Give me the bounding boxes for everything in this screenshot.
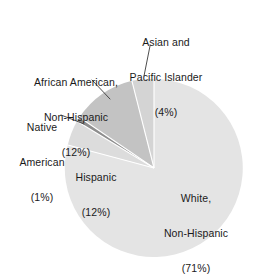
slice-label-white-line1: White, bbox=[152, 193, 240, 205]
slice-label-asian-value: (4%) bbox=[118, 107, 214, 119]
slice-label-hispanic-line1: Hispanic bbox=[58, 172, 134, 184]
slice-label-native-line1: Native bbox=[2, 122, 82, 134]
slice-label-white-line2: Non-Hispanic bbox=[152, 228, 240, 240]
slice-label-white-non-hispanic: White, Non-Hispanic (71%) bbox=[152, 170, 240, 278]
slice-label-hispanic: Hispanic (12%) bbox=[58, 149, 134, 242]
slice-label-asian-line1: Asian and bbox=[118, 37, 214, 49]
slice-label-white-value: (71%) bbox=[152, 263, 240, 275]
slice-label-african-line1: African American, bbox=[22, 77, 130, 89]
slice-label-hispanic-value: (12%) bbox=[58, 207, 134, 219]
slice-label-asian-line2: Pacific Islander bbox=[118, 72, 214, 84]
slice-label-asian-pacific-islander: Asian and Pacific Islander (4%) bbox=[118, 14, 214, 142]
